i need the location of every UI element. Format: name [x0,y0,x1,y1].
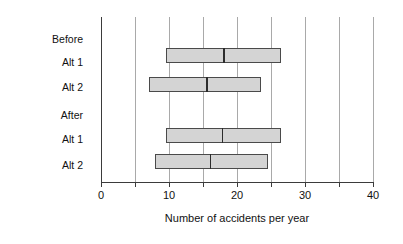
group-label-after: After [0,109,83,121]
gridline-40 [373,17,374,182]
x-axis-title: Number of accidents per year [165,212,309,224]
box-after-alt-2 [155,154,267,169]
tick-30 [305,182,306,187]
category-label-before-alt2: Alt 2 [0,81,83,93]
tick-label-10: 10 [163,189,175,201]
median-after-alt-1 [222,128,223,143]
tick-label-30: 30 [299,189,311,201]
tick-label-0: 0 [98,189,104,201]
median-before-alt-2 [206,77,207,92]
gridline-35 [339,17,340,182]
tick-0 [101,182,102,187]
category-label-before-alt1: Alt 1 [0,56,83,68]
median-after-alt-2 [210,154,211,169]
tick-25 [271,182,272,187]
gridline-5 [135,17,136,182]
tick-15 [203,182,204,187]
gridline-25 [271,17,272,182]
tick-10 [169,182,170,187]
y-axis-line [101,17,102,183]
tick-5 [135,182,136,187]
category-label-after-alt1: Alt 1 [0,133,83,145]
tick-label-40: 40 [367,189,379,201]
box-before-alt-2 [149,77,261,92]
gridline-30 [305,17,306,182]
tick-20 [237,182,238,187]
tick-35 [339,182,340,187]
group-label-before: Before [0,33,83,45]
tick-40 [373,182,374,187]
box-plot-chart: Before Alt 1 Alt 2 After Alt 1 Alt 2 010… [0,0,403,244]
median-before-alt-1 [223,48,224,63]
category-label-after-alt2: Alt 2 [0,159,83,171]
tick-label-20: 20 [231,189,243,201]
